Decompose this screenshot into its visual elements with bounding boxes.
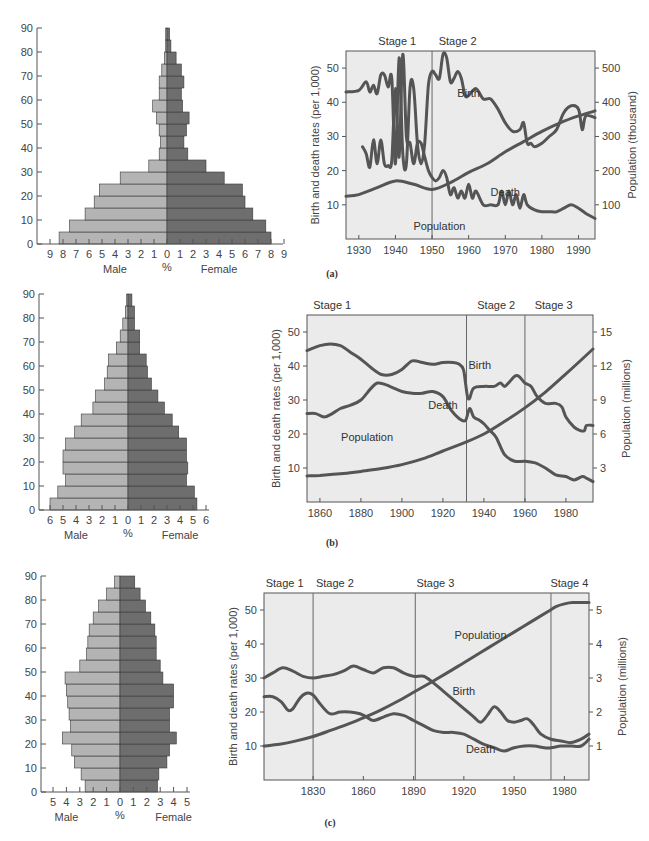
female-bar xyxy=(128,366,148,378)
male-bar xyxy=(63,462,128,474)
stage-label: Stage 2 xyxy=(316,577,354,589)
y-tick-label: 50 xyxy=(288,326,300,338)
male-bar xyxy=(80,660,120,672)
female-bar xyxy=(128,390,158,402)
y2-tick-label: 200 xyxy=(602,165,620,177)
stage-label: Stage 3 xyxy=(416,577,454,589)
rates-chart-c: Stage 1Stage 2Stage 3Stage 4102030405012… xyxy=(227,577,628,829)
female-bar xyxy=(128,402,164,414)
x-tick-label: 1960 xyxy=(513,507,537,519)
stage-label: Stage 1 xyxy=(378,35,416,47)
x-tick-label: 1930 xyxy=(347,244,371,256)
female-bar xyxy=(128,426,179,438)
x-tick-label: 4 xyxy=(73,514,79,526)
y2-tick-label: 500 xyxy=(602,62,620,74)
x-tick-label: 1 xyxy=(112,514,118,526)
y-tick-label: 10 xyxy=(245,740,257,752)
y-axis-title: Birth and death rates (per 1,000) xyxy=(227,607,239,766)
x-tick-label: 7 xyxy=(255,248,261,260)
female-bar xyxy=(120,756,167,768)
x-tick-label: 5 xyxy=(99,248,105,260)
x-tick-label: 0 xyxy=(164,248,170,260)
y-tick-label: 10 xyxy=(327,199,339,211)
y-tick-label: 40 xyxy=(327,96,339,108)
male-bar xyxy=(116,342,128,354)
female-bar xyxy=(128,378,151,390)
x-tick-label: 0 xyxy=(117,796,123,808)
y-tick-label: 40 xyxy=(23,408,35,420)
female-bar xyxy=(167,88,181,100)
x-tick-label: 3 xyxy=(86,514,92,526)
male-bar xyxy=(58,486,128,498)
female-bar xyxy=(128,354,146,366)
birth-label: Birth xyxy=(469,359,492,371)
y-tick-label: 50 xyxy=(245,604,257,616)
stage-label: Stage 2 xyxy=(477,299,515,311)
male-bar xyxy=(66,438,128,450)
x-tick-label: 5 xyxy=(229,248,235,260)
y-tick-label: 80 xyxy=(25,594,37,606)
x-tick-label: 1920 xyxy=(452,785,476,797)
y2-tick-label: 15 xyxy=(600,326,612,338)
y2-tick-label: 300 xyxy=(602,130,620,142)
panel-label: (b) xyxy=(326,537,338,549)
rates-chart-b: Stage 1Stage 2Stage 31020304050369121518… xyxy=(270,299,632,549)
female-bar xyxy=(167,124,187,136)
y2-tick-label: 12 xyxy=(600,360,612,372)
male-bar xyxy=(149,160,167,172)
male-bar xyxy=(162,64,167,76)
y-tick-label: 10 xyxy=(288,462,300,474)
x-tick-label: 8 xyxy=(268,248,274,260)
y-tick-label: 10 xyxy=(21,214,33,226)
stage-label: Stage 3 xyxy=(535,299,573,311)
y2-tick-label: 100 xyxy=(602,199,620,211)
y-tick-label: 40 xyxy=(21,142,33,154)
female-bar xyxy=(167,76,184,88)
male-label: Male xyxy=(64,529,88,541)
male-bar xyxy=(125,306,128,318)
rates-chart-a: Stage 1Stage 210203040501002003004005001… xyxy=(309,35,638,280)
demographic-transition-figure: 01020304050607080909876543210123456789Ma… xyxy=(0,0,649,841)
percent-label: % xyxy=(115,809,125,821)
y-tick-label: 20 xyxy=(245,706,257,718)
x-tick-label: 2 xyxy=(90,796,96,808)
female-bar xyxy=(128,486,194,498)
y2-axis-title: Population (millions) xyxy=(620,359,632,458)
y2-tick-label: 2 xyxy=(596,706,602,718)
x-tick-label: 4 xyxy=(171,796,177,808)
stage-label: Stage 4 xyxy=(550,577,588,589)
x-tick-label: 1890 xyxy=(401,785,425,797)
y-axis-title: Birth and death rates (per 1,000) xyxy=(309,66,321,225)
x-tick-label: 4 xyxy=(216,248,222,260)
x-tick-label: 6 xyxy=(203,514,209,526)
y-tick-label: 60 xyxy=(25,642,37,654)
female-label: Female xyxy=(155,811,192,823)
x-tick-label: 4 xyxy=(63,796,69,808)
female-bar xyxy=(167,52,176,64)
male-bar xyxy=(87,648,121,660)
female-bar xyxy=(167,40,171,52)
female-bar xyxy=(120,720,170,732)
x-tick-label: 1960 xyxy=(456,244,480,256)
female-label: Female xyxy=(201,263,238,275)
female-bar xyxy=(167,220,266,232)
x-tick-label: 3 xyxy=(77,796,83,808)
female-bar xyxy=(120,636,156,648)
y-tick-label: 50 xyxy=(23,384,35,396)
population-label: Population xyxy=(341,431,393,443)
y2-axis-title: Population (millions) xyxy=(616,637,628,736)
y-tick-label: 50 xyxy=(327,62,339,74)
x-tick-label: 7 xyxy=(73,248,79,260)
female-bar xyxy=(120,708,170,720)
male-bar xyxy=(75,426,128,438)
x-tick-label: 1980 xyxy=(530,244,554,256)
y-tick-label: 50 xyxy=(25,666,37,678)
y-tick-label: 90 xyxy=(23,288,35,300)
female-bar xyxy=(128,498,197,510)
x-tick-label: 3 xyxy=(157,796,163,808)
female-bar xyxy=(120,696,174,708)
x-tick-label: 5 xyxy=(190,514,196,526)
death-label: Death xyxy=(428,399,457,411)
male-bar xyxy=(70,220,168,232)
male-bar xyxy=(88,636,120,648)
